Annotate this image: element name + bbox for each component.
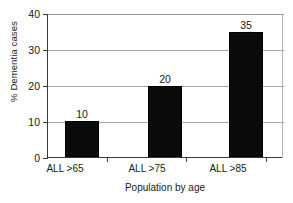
x-tick-2 <box>186 157 187 162</box>
x-axis-title: Population by age <box>47 181 283 194</box>
bar-chart: % Dementia cases 40 30 20 10 0 10 <box>0 0 293 203</box>
x-tick-3 <box>266 157 267 162</box>
bar-value-label-3: 35 <box>240 19 252 31</box>
bar-all-over-65[interactable]: 10 <box>65 121 99 157</box>
bar-all-over-75[interactable]: 20 <box>148 86 182 157</box>
x-category-label-1: ALL >65 <box>30 162 100 175</box>
y-tick-0: 0 <box>43 158 48 159</box>
x-category-label-3: ALL >85 <box>193 162 263 175</box>
y-tick-label-20: 20 <box>28 80 40 93</box>
y-tick-label-40: 40 <box>28 8 40 21</box>
gridline-40 <box>48 14 284 15</box>
y-tick-label-30: 30 <box>28 44 40 57</box>
y-axis-title: % Dementia cases <box>8 7 19 117</box>
bar-value-label-2: 20 <box>159 73 171 85</box>
plot-area: 40 30 20 10 0 10 20 35 <box>47 14 283 158</box>
y-tick-20: 20 <box>43 86 48 87</box>
x-category-label-2: ALL >75 <box>112 162 182 175</box>
y-tick-30: 30 <box>43 50 48 51</box>
y-tick-40: 40 <box>43 14 48 15</box>
y-tick-10: 10 <box>43 122 48 123</box>
y-tick-label-10: 10 <box>28 116 40 129</box>
bar-all-over-85[interactable]: 35 <box>229 32 263 157</box>
x-tick-1 <box>107 157 108 162</box>
bar-value-label-1: 10 <box>76 108 88 120</box>
